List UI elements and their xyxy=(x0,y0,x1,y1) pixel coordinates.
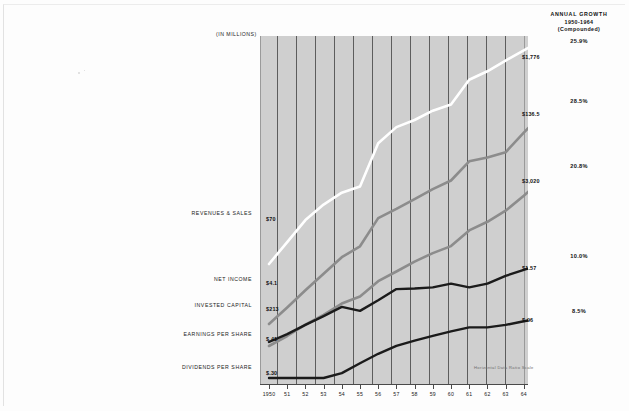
x-axis-tick-label: 57 xyxy=(393,391,399,397)
end-value-invested-capital: $3,020 xyxy=(522,178,540,184)
series-label-revenues-sales: REVENUES & SALES xyxy=(120,210,252,216)
x-axis-tick xyxy=(487,385,488,389)
series-line-earnings-per-share xyxy=(269,264,528,342)
growth-column-header: ANNUAL GROWTH 1950-1964 (Compounded) xyxy=(533,11,625,34)
series-label-dividends-per-share: DIVIDENDS PER SHARE xyxy=(120,364,252,370)
x-axis-tick xyxy=(360,385,361,389)
series-label-net-income: NET INCOME xyxy=(120,276,252,282)
x-axis xyxy=(260,384,528,391)
start-value-earnings-per-share: $.41 xyxy=(266,336,277,342)
series-label-invested-capital: INVESTED CAPITAL xyxy=(120,302,252,308)
x-axis-tick xyxy=(269,385,270,389)
series-line-invested-capital xyxy=(269,180,528,346)
x-axis-tick xyxy=(305,385,306,389)
x-axis-tick xyxy=(415,385,416,389)
x-axis-labels: 19505152535455565758596061626364 xyxy=(238,391,550,403)
growth-header-line1: ANNUAL GROWTH xyxy=(533,11,625,19)
x-axis-tick xyxy=(506,385,507,389)
x-axis-tick xyxy=(469,385,470,389)
x-axis-tick xyxy=(342,385,343,389)
page-sheet: (IN MILLIONS) 19505152535455565758596061… xyxy=(0,0,629,411)
growth-value-dividends-per-share: 8.5% xyxy=(533,308,625,314)
x-axis-tick xyxy=(324,385,325,389)
end-value-earnings-per-share: $1.57 xyxy=(522,265,537,271)
growth-header-line3: (Compounded) xyxy=(533,26,625,34)
x-axis-tick xyxy=(396,385,397,389)
growth-value-revenues-sales: 25.9% xyxy=(533,38,625,44)
x-axis-tick-label: 58 xyxy=(411,391,417,397)
growth-header-line2: 1950-1964 xyxy=(533,19,625,27)
series-line-revenues-sales xyxy=(269,40,528,264)
x-axis-tick-label: 60 xyxy=(448,391,454,397)
end-value-net-income: $136.5 xyxy=(522,111,540,117)
x-axis-tick-label: 1950 xyxy=(263,391,276,397)
x-axis-tick xyxy=(451,385,452,389)
x-axis-tick-label: 61 xyxy=(466,391,472,397)
x-axis-tick-label: 54 xyxy=(339,391,345,397)
start-value-dividends-per-share: $.30 xyxy=(266,370,277,376)
growth-value-earnings-per-share: 10.0% xyxy=(533,253,625,259)
chart-plot-area xyxy=(260,36,528,384)
end-value-dividends-per-share: $.96 xyxy=(522,317,533,323)
start-value-invested-capital: $213 xyxy=(266,306,279,312)
x-axis-tick-label: 56 xyxy=(375,391,381,397)
x-axis-tick xyxy=(524,385,525,389)
x-axis-tick-label: 51 xyxy=(284,391,290,397)
x-axis-tick-label: 64 xyxy=(521,391,527,397)
start-value-net-income: $4.1 xyxy=(266,280,277,286)
series-lines xyxy=(260,36,528,384)
units-note: (IN MILLIONS) xyxy=(216,31,257,37)
x-axis-tick-label: 59 xyxy=(430,391,436,397)
scan-speck xyxy=(78,72,80,74)
end-value-revenues-sales: $1,776 xyxy=(522,54,540,60)
growth-value-invested-capital: 20.8% xyxy=(533,163,625,169)
scale-note: Horizontal Data Ratio Scale xyxy=(474,365,534,370)
x-axis-tick-label: 52 xyxy=(302,391,308,397)
x-axis-tick xyxy=(433,385,434,389)
x-axis-tick-label: 63 xyxy=(502,391,508,397)
start-value-revenues-sales: $70 xyxy=(266,216,276,222)
x-axis-tick-label: 62 xyxy=(484,391,490,397)
growth-value-net-income: 28.5% xyxy=(533,98,625,104)
x-axis-tick-label: 53 xyxy=(320,391,326,397)
x-axis-tick xyxy=(287,385,288,389)
series-label-earnings-per-share: EARNINGS PER SHARE xyxy=(120,331,252,337)
scan-speck xyxy=(84,70,85,71)
x-axis-tick xyxy=(378,385,379,389)
x-axis-tick-label: 55 xyxy=(357,391,363,397)
